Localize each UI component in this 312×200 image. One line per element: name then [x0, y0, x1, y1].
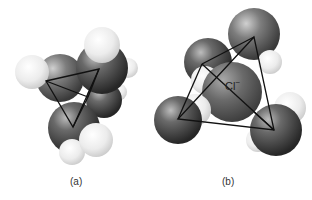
chloride-label: Cl−	[225, 78, 240, 92]
panel-a-model	[15, 27, 138, 165]
hydrogen-atom	[84, 27, 120, 63]
molecular-figure	[0, 0, 312, 200]
ion-symbol: Cl	[225, 80, 235, 92]
panel-b-label: (b)	[222, 176, 234, 187]
panel-a-label: (a)	[70, 176, 82, 187]
oxygen-atom	[250, 104, 302, 156]
hydrogen-atom	[15, 55, 49, 89]
oxygen-atom	[154, 96, 202, 144]
ion-charge: −	[235, 78, 240, 87]
hydrogen-atom	[79, 123, 113, 157]
